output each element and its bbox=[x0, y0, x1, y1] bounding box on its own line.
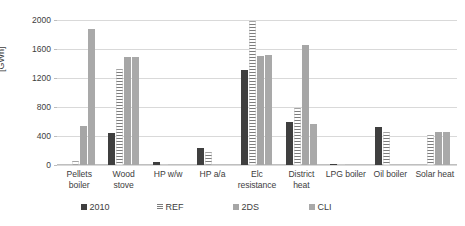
bar-2010 bbox=[241, 70, 248, 165]
legend-label: 2DS bbox=[242, 203, 260, 212]
bar-ref bbox=[116, 69, 123, 165]
legend-label: REF bbox=[166, 203, 184, 212]
x-axis-label: Solar heat bbox=[413, 167, 457, 201]
bar-cli bbox=[310, 124, 317, 165]
x-axis-label: Pellets boiler bbox=[57, 167, 101, 201]
bar-chart: [GWh] 0400800120016002000 Pellets boiler… bbox=[0, 0, 465, 226]
bar-2ds bbox=[435, 132, 442, 165]
bar-group bbox=[279, 20, 323, 165]
y-axis-tick-label: 1600 bbox=[17, 45, 51, 54]
bar-2010 bbox=[197, 148, 204, 165]
legend-item-ref[interactable]: REF bbox=[157, 203, 233, 212]
bar-group bbox=[101, 20, 145, 165]
legend-swatch-icon bbox=[157, 204, 163, 210]
bar-ref bbox=[427, 135, 434, 165]
legend-label: 2010 bbox=[90, 203, 110, 212]
bar-2010 bbox=[153, 162, 160, 165]
chart-legend: 2010REF2DSCLI bbox=[0, 199, 465, 215]
plot-area: 0400800120016002000 bbox=[57, 20, 457, 165]
legend-item-cli[interactable]: CLI bbox=[309, 203, 385, 212]
bar-2010 bbox=[375, 127, 382, 165]
bar-2ds bbox=[302, 45, 309, 165]
bar-group bbox=[413, 20, 457, 165]
bar-ref bbox=[72, 161, 79, 165]
gridline bbox=[57, 165, 457, 166]
bar-2ds bbox=[124, 57, 131, 165]
y-axis-tick-label: 2000 bbox=[17, 16, 51, 25]
bar-group bbox=[235, 20, 279, 165]
bar-group bbox=[190, 20, 234, 165]
x-axis-labels: Pellets boilerWood stoveHP w/wHP a/aElc … bbox=[57, 167, 457, 201]
y-axis-tick-label: 400 bbox=[17, 132, 51, 141]
bar-group bbox=[368, 20, 412, 165]
y-axis-tick-label: 0 bbox=[17, 161, 51, 170]
bar-groups bbox=[57, 20, 457, 165]
legend-swatch-icon bbox=[309, 204, 315, 210]
x-axis-label: HP w/w bbox=[146, 167, 190, 201]
bar-ref bbox=[249, 21, 256, 165]
y-axis-title: [GWh] bbox=[0, 46, 6, 72]
bar-2010 bbox=[108, 133, 115, 165]
bar-cli bbox=[265, 55, 272, 165]
bar-group bbox=[324, 20, 368, 165]
x-axis-label: LPG boiler bbox=[324, 167, 368, 201]
bar-ref bbox=[205, 152, 212, 165]
bar-cli bbox=[132, 57, 139, 165]
y-axis-tickmark bbox=[54, 165, 57, 166]
x-axis-label: District heat bbox=[279, 167, 323, 201]
bar-ref bbox=[338, 164, 345, 165]
bar-group bbox=[57, 20, 101, 165]
y-axis-tick-label: 800 bbox=[17, 103, 51, 112]
legend-label: CLI bbox=[318, 203, 332, 212]
bar-2010 bbox=[330, 164, 337, 165]
bar-cli bbox=[88, 29, 95, 165]
legend-item-2010[interactable]: 2010 bbox=[81, 203, 157, 212]
x-axis-label: HP a/a bbox=[190, 167, 234, 201]
bar-ref bbox=[383, 132, 390, 165]
bar-ref bbox=[161, 164, 168, 165]
x-axis-label: Wood stove bbox=[101, 167, 145, 201]
legend-swatch-icon bbox=[81, 204, 87, 210]
bar-group bbox=[146, 20, 190, 165]
bar-2010 bbox=[286, 122, 293, 165]
x-axis-label: Oil boiler bbox=[368, 167, 412, 201]
legend-item-2ds[interactable]: 2DS bbox=[233, 203, 309, 212]
bar-2ds bbox=[257, 56, 264, 165]
y-axis-tick-label: 1200 bbox=[17, 74, 51, 83]
bar-ref bbox=[294, 108, 301, 165]
legend-swatch-icon bbox=[233, 204, 239, 210]
x-axis-label: Elc resistance bbox=[235, 167, 279, 201]
bar-2ds bbox=[80, 126, 87, 165]
bar-cli bbox=[443, 132, 450, 165]
